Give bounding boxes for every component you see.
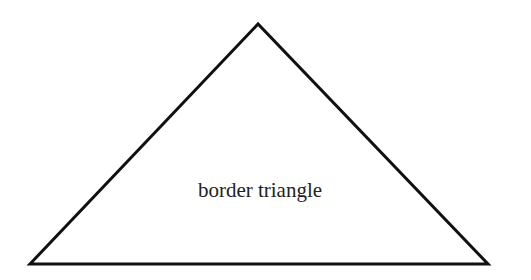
border-triangle-shape	[30, 24, 488, 264]
triangle-canvas	[0, 0, 531, 280]
triangle-label: border triangle	[150, 178, 370, 203]
